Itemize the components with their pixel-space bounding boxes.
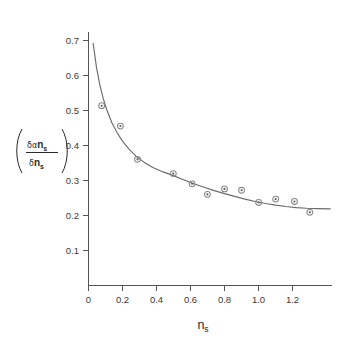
y-axis-numerator-greek: δα [27,141,37,150]
data-point-center-dot [241,189,243,191]
x-tick-label: 1.2 [286,294,299,305]
y-tick-label: 0.4 [66,140,79,151]
y-axis-numerator-subscript: s [43,145,47,152]
data-point-center-dot [191,183,193,185]
data-point-center-dot [258,201,260,203]
data-point-center-dot [172,173,174,175]
data-point-center-dot [309,211,311,213]
y-tick-label: 0.3 [66,175,79,186]
y-tick-label: 0.1 [66,245,79,256]
y-tick-label: 0.7 [66,35,79,46]
data-point-center-dot [275,198,277,200]
y-tick-label: 0.5 [66,105,79,116]
x-tick-label: 0 [86,294,91,305]
y-tick-label: 0.2 [66,210,79,221]
x-axis-title-subscript: s [204,324,208,334]
figure-background [0,0,357,344]
x-tick-label: 0.2 [116,294,129,305]
x-tick-label: 1.0 [252,294,265,305]
data-point-center-dot [136,158,138,160]
x-tick-label: 0.8 [218,294,231,305]
figure-container: 0.7 0.6 0.5 0.4 0.3 0.2 0.1 0 0.2 0.4 0.… [0,0,357,344]
y-axis-denominator-subscript: s [40,163,44,170]
x-tick-label: 0.6 [184,294,197,305]
x-tick-label: 0.4 [150,294,163,305]
scatter-plot-svg: 0.7 0.6 0.5 0.4 0.3 0.2 0.1 0 0.2 0.4 0.… [0,0,357,344]
data-point-center-dot [101,105,103,107]
data-point-center-dot [206,193,208,195]
y-tick-label: 0.6 [66,70,79,81]
data-point-center-dot [293,200,295,202]
data-point-center-dot [223,188,225,190]
data-point-center-dot [119,125,121,127]
x-axis-title-base: n [197,318,204,332]
